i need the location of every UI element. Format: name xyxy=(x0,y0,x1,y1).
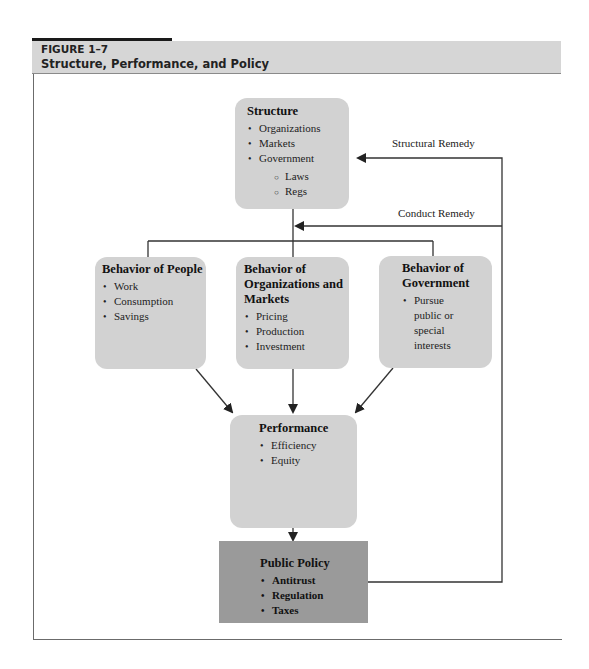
behavior-people-title: Behavior of People xyxy=(102,262,206,277)
behavior-organizations-title: Behavior of Organizations and Markets xyxy=(244,262,345,307)
list-item: Regulation xyxy=(260,588,368,603)
list-item: Pricing xyxy=(244,309,345,324)
structure-title: Structure xyxy=(247,104,349,119)
behavior-people-box: Behavior of People Work Consumption Savi… xyxy=(95,257,206,369)
list-item: Antitrust xyxy=(260,573,368,588)
structural-remedy-label: Structural Remedy xyxy=(392,137,475,149)
public-policy-title: Public Policy xyxy=(260,556,368,571)
list-item: Work xyxy=(102,279,206,294)
structure-box: Structure Organizations Markets Governme… xyxy=(235,98,349,209)
list-item: Regs xyxy=(273,184,349,199)
performance-title: Performance xyxy=(259,421,357,436)
list-item: Equity xyxy=(259,453,357,468)
list-item: Production xyxy=(244,324,345,339)
list-item: Pursue public or special interests xyxy=(402,293,472,353)
public-policy-box: Public Policy Antitrust Regulation Taxes xyxy=(219,541,368,623)
conduct-remedy-label: Conduct Remedy xyxy=(398,207,475,219)
behavior-government-title: Behavior of Government xyxy=(402,261,472,291)
structure-items: Organizations Markets Government xyxy=(247,121,349,166)
behavior-government-items: Pursue public or special interests xyxy=(402,293,472,353)
list-item: Taxes xyxy=(260,603,368,618)
list-item: Savings xyxy=(102,309,206,324)
behavior-organizations-box: Behavior of Organizations and Markets Pr… xyxy=(236,257,349,369)
behavior-organizations-items: Pricing Production Investment xyxy=(244,309,345,354)
list-item: Government xyxy=(247,151,349,166)
list-item: Laws xyxy=(273,169,349,184)
list-item: Efficiency xyxy=(259,438,357,453)
behavior-government-box: Behavior of Government Pursue public or … xyxy=(379,256,492,368)
list-item: Consumption xyxy=(102,294,206,309)
list-item: Markets xyxy=(247,136,349,151)
behavior-people-items: Work Consumption Savings xyxy=(102,279,206,324)
performance-box: Performance Efficiency Equity xyxy=(230,415,357,528)
list-item: Organizations xyxy=(247,121,349,136)
list-item: Investment xyxy=(244,339,345,354)
performance-items: Efficiency Equity xyxy=(259,438,357,468)
structure-subitems: Laws Regs xyxy=(273,169,349,199)
public-policy-items: Antitrust Regulation Taxes xyxy=(260,573,368,618)
